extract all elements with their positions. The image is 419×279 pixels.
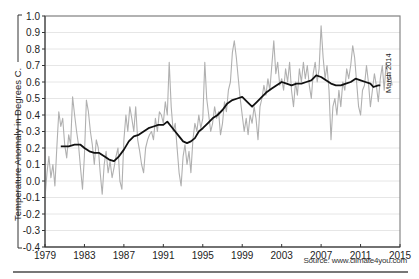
y-tick-label: 0.9 <box>26 27 40 38</box>
y-tick-label: 0.0 <box>26 176 40 187</box>
y-tick-label: 0.7 <box>26 60 40 71</box>
y-tick-label: 1.0 <box>26 11 40 22</box>
x-tick-label: 1995 <box>192 250 215 261</box>
y-tick-label: -0.2 <box>23 209 41 220</box>
temperature-anomaly-chart: 1.00.90.80.70.60.50.40.30.20.10.0-0.1-0.… <box>0 0 419 279</box>
y-tick-label: 0.1 <box>26 159 40 170</box>
gridlines <box>45 16 400 247</box>
x-tick-label: 1999 <box>231 250 254 261</box>
x-tick-label: 1991 <box>152 250 175 261</box>
y-tick-label: 0.6 <box>26 77 40 88</box>
x-tick-label: 2003 <box>271 250 294 261</box>
date-annotation: March 2014 <box>384 53 393 93</box>
monthly-series-line <box>45 26 392 198</box>
x-tick-label: 1979 <box>34 250 57 261</box>
y-axis-ticks: 1.00.90.80.70.60.50.40.30.20.10.0-0.1-0.… <box>23 11 45 253</box>
y-tick-label: 0.2 <box>26 143 40 154</box>
y-axis-title-group: Temperature Anomaly in Degrees C. <box>12 15 23 248</box>
x-tick-label: 1983 <box>73 250 96 261</box>
x-tick-label: 1987 <box>113 250 136 261</box>
monthly-anomaly-path <box>45 26 392 198</box>
y-tick-label: 0.5 <box>26 93 40 104</box>
bottom-divider <box>13 271 408 273</box>
y-tick-label: -0.3 <box>23 225 41 236</box>
y-tick-label: 0.4 <box>26 110 40 121</box>
y-tick-label: 0.3 <box>26 126 40 137</box>
y-axis-title: Temperature Anomaly in Degrees C. <box>12 68 23 221</box>
y-tick-label: 0.8 <box>26 44 40 55</box>
source-credit: Source: www.climate4you.com <box>303 256 407 265</box>
y-tick-label: -0.1 <box>23 192 41 203</box>
